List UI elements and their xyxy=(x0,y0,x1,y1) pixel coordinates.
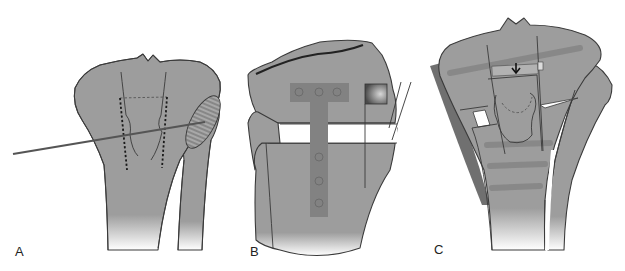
screw-stripe xyxy=(487,143,550,145)
bone-graft-block xyxy=(365,84,387,104)
correction-gauge xyxy=(492,64,538,76)
screw-stripe xyxy=(490,164,545,166)
panel-label-a: A xyxy=(15,244,24,259)
osteotomy-figure xyxy=(0,0,625,271)
screw-stripe xyxy=(492,186,540,188)
panel-c xyxy=(430,18,612,250)
panel-b xyxy=(248,40,411,255)
panel-label-c: C xyxy=(434,242,443,257)
panel-label-b: B xyxy=(250,244,259,259)
tibia-edge xyxy=(545,200,546,250)
gauge-marker xyxy=(538,62,543,70)
osteotomy-gap xyxy=(280,124,397,143)
panel-a xyxy=(13,54,227,250)
